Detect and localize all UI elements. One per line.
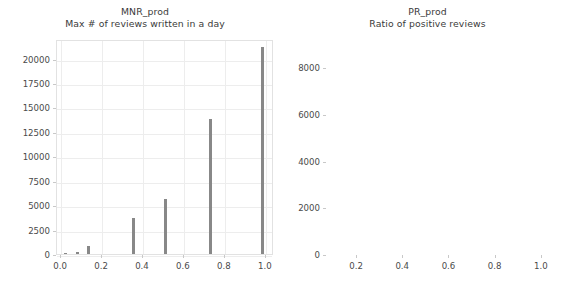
x-tick-mark <box>356 255 357 258</box>
x-tick-label: 0.6 <box>428 261 468 271</box>
y-tick-label: 17500 <box>12 79 50 89</box>
y-tick-mark <box>323 208 326 209</box>
y-tick-mark <box>53 133 56 134</box>
x-tick-mark <box>183 255 184 258</box>
bar-series-mnr-prod <box>57 41 272 254</box>
chart-subtitle-line-2: Max # of reviews written in a day <box>0 18 290 30</box>
x-tick-label: 1.0 <box>245 261 285 271</box>
y-tick-label: 10000 <box>12 152 50 162</box>
chart-panel-pr-prod: PR_prod Ratio of positive reviews 020004… <box>290 0 565 291</box>
x-tick-mark <box>265 255 266 258</box>
histogram-bar <box>64 253 67 254</box>
x-tick-mark <box>448 255 449 258</box>
y-tick-mark <box>53 157 56 158</box>
y-tick-mark <box>53 182 56 183</box>
x-tick-label: 0.2 <box>336 261 376 271</box>
x-tick-mark <box>60 255 61 258</box>
y-tick-label: 8000 <box>282 63 320 73</box>
matplotlib-figure: MNR_prod Max # of reviews written in a d… <box>0 0 565 291</box>
y-tick-label: 12500 <box>12 128 50 138</box>
x-tick-label: 0.8 <box>204 261 244 271</box>
y-tick-mark <box>53 255 56 256</box>
y-tick-mark <box>53 60 56 61</box>
y-tick-mark <box>53 206 56 207</box>
y-tick-label: 5000 <box>12 201 50 211</box>
y-tick-label: 0 <box>12 250 50 260</box>
chart-subtitle-line-2: Ratio of positive reviews <box>290 18 565 30</box>
x-tick-mark <box>224 255 225 258</box>
x-tick-label: 0.4 <box>122 261 162 271</box>
gridline-horizontal <box>57 256 272 257</box>
histogram-bar <box>164 199 167 254</box>
y-tick-mark <box>323 255 326 256</box>
y-tick-label: 6000 <box>282 110 320 120</box>
chart-panel-mnr-prod: MNR_prod Max # of reviews written in a d… <box>0 0 290 291</box>
x-tick-label: 0.6 <box>163 261 203 271</box>
histogram-bar <box>87 246 90 254</box>
x-tick-mark <box>402 255 403 258</box>
x-tick-label: 0.8 <box>475 261 515 271</box>
y-tick-label: 4000 <box>282 157 320 167</box>
x-tick-label: 1.0 <box>521 261 561 271</box>
y-tick-mark <box>53 231 56 232</box>
y-tick-mark <box>323 162 326 163</box>
chart-title-line-1: PR_prod <box>290 6 565 18</box>
histogram-bar <box>76 252 79 254</box>
histogram-bar <box>261 47 264 254</box>
y-tick-mark <box>323 68 326 69</box>
chart-title-pr-prod: PR_prod Ratio of positive reviews <box>290 6 565 30</box>
y-tick-label: 20000 <box>12 55 50 65</box>
y-tick-label: 2000 <box>282 203 320 213</box>
y-tick-label: 7500 <box>12 177 50 187</box>
x-tick-mark <box>101 255 102 258</box>
y-tick-label: 15000 <box>12 103 50 113</box>
y-tick-label: 2500 <box>12 226 50 236</box>
x-tick-mark <box>495 255 496 258</box>
x-tick-mark <box>541 255 542 258</box>
x-tick-mark <box>142 255 143 258</box>
x-tick-label: 0.2 <box>81 261 121 271</box>
y-tick-mark <box>323 115 326 116</box>
y-tick-label: 0 <box>282 250 320 260</box>
chart-title-mnr-prod: MNR_prod Max # of reviews written in a d… <box>0 6 290 30</box>
chart-title-line-1: MNR_prod <box>0 6 290 18</box>
histogram-bar <box>132 218 135 254</box>
x-tick-label: 0.4 <box>382 261 422 271</box>
y-tick-mark <box>53 108 56 109</box>
plot-area-mnr-prod <box>56 40 273 255</box>
histogram-bar <box>209 119 212 254</box>
x-tick-label: 0.0 <box>40 261 80 271</box>
y-tick-mark <box>53 84 56 85</box>
